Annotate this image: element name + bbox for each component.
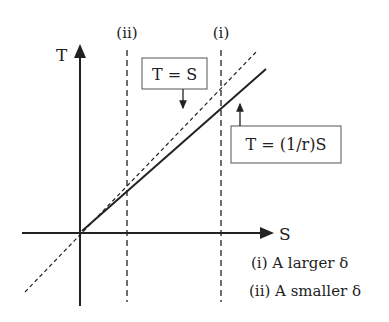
x-axis-label: S bbox=[279, 224, 291, 244]
diagram: T S (ii) (i) T = S T = (1/r)S (i) A larg… bbox=[0, 0, 389, 322]
marker-i-label: (i) bbox=[213, 24, 230, 42]
marker-ii-label: (ii) bbox=[116, 24, 137, 42]
diagram-svg: T S (ii) (i) T = S T = (1/r)S (i) A larg… bbox=[0, 0, 389, 322]
legend-item-ii: (ii) A smaller δ bbox=[249, 282, 361, 300]
y-axis-label: T bbox=[56, 45, 68, 65]
scaled-label: T = (1/r)S bbox=[246, 135, 327, 154]
legend-item-i: (i) A larger δ bbox=[251, 254, 348, 272]
identity-label: T = S bbox=[152, 65, 197, 84]
